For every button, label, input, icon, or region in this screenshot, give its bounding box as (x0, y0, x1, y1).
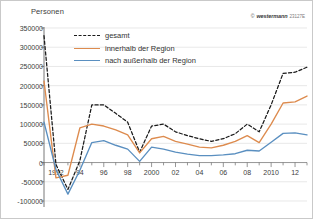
chart-figure: Personen © westermann 23127E 35000030000… (0, 0, 313, 219)
legend-item: nach außerhalb der Region (74, 56, 196, 65)
legend-color-swatch (74, 48, 100, 49)
legend-label: innerhalb der Region (105, 44, 175, 53)
legend-color-swatch (74, 35, 100, 36)
legend-item: innerhalb der Region (74, 44, 196, 53)
chart-legend: gesamtinnerhalb der Regionnach außerhalb… (74, 31, 196, 65)
legend-color-swatch (74, 60, 100, 61)
legend-item: gesamt (74, 31, 196, 40)
legend-label: gesamt (105, 31, 130, 40)
legend-label: nach außerhalb der Region (105, 56, 196, 65)
series-line-2 (44, 122, 307, 194)
